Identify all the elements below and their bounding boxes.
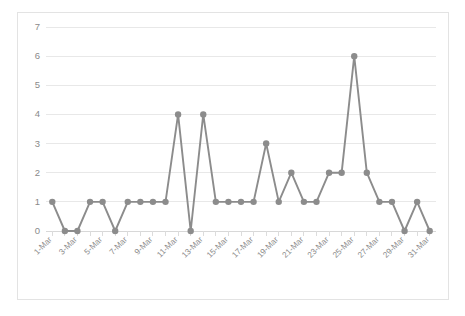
series-data-point [125,199,131,205]
x-axis-tick-label: 25-Mar [331,235,356,260]
x-axis-tick-label: 27-Mar [356,235,381,260]
x-axis-tick-label: 3-Mar [57,235,79,257]
y-axis-tick-label: 0 [35,225,40,236]
series-data-point [427,228,433,234]
y-axis-tick-label: 3 [35,138,40,149]
series-data-point [74,228,80,234]
series-data-point [364,170,370,176]
x-axis-tick-label: 23-Mar [306,235,331,260]
y-axis-tick-label: 7 [35,21,40,32]
series-data-point [99,199,105,205]
series-data-point [389,199,395,205]
series-data-point [263,140,269,146]
series-data-point [137,199,143,205]
series-data-point [250,199,256,205]
x-axis-tick-label: 13-Mar [180,235,205,260]
series-data-point [49,199,55,205]
x-axis-tick-label: 1-Mar [32,235,54,257]
series-data-point [150,199,156,205]
y-axis-tick-label: 5 [35,79,40,90]
y-axis-tick-label: 4 [35,108,40,119]
x-axis-tick-label: 21-Mar [281,235,306,260]
series-data-point [376,199,382,205]
series-data-point [112,228,118,234]
series-data-point [326,170,332,176]
series-data-point [175,111,181,117]
line-chart-plot: 012345671-Mar3-Mar5-Mar7-Mar9-Mar11-Mar1… [18,13,448,299]
series-data-point [414,199,420,205]
x-axis-tick-label: 9-Mar [133,235,155,257]
series-data-point [338,170,344,176]
series-data-point [313,199,319,205]
x-axis-tick-label: 5-Mar [83,235,105,257]
series-data-point [200,111,206,117]
x-axis-tick-label: 17-Mar [230,235,255,260]
x-axis-tick-label: 15-Mar [205,235,230,260]
x-axis-tick-label: 11-Mar [155,235,179,259]
series-data-point [162,199,168,205]
series-data-point [301,199,307,205]
y-axis-tick-label: 6 [35,50,40,61]
series-data-point [213,199,219,205]
chart-container: 012345671-Mar3-Mar5-Mar7-Mar9-Mar11-Mar1… [17,12,449,300]
y-axis-tick-label: 2 [35,167,40,178]
series-data-point [187,228,193,234]
x-axis-tick-label: 29-Mar [381,235,406,260]
x-axis-tick-label: 7-Mar [108,235,130,257]
series-data-point [238,199,244,205]
x-axis-tick-label: 31-Mar [406,235,431,260]
series-data-point [62,228,68,234]
series-data-point [351,53,357,59]
x-axis-tick-label: 19-Mar [255,235,280,260]
series-data-point [276,199,282,205]
y-axis-tick-label: 1 [35,196,40,207]
series-data-point [288,170,294,176]
series-data-point [87,199,93,205]
series-data-point [401,228,407,234]
series-data-point [225,199,231,205]
